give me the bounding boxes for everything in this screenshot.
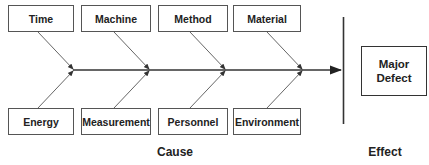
cause-box-environment: Environment bbox=[233, 108, 301, 135]
rib-measurement bbox=[114, 71, 149, 108]
cause-label: Time bbox=[29, 13, 53, 25]
effect-box: Major Defect bbox=[361, 46, 427, 96]
effect-label: Major Defect bbox=[376, 57, 411, 85]
cause-box-material: Material bbox=[233, 5, 301, 32]
cause-caption: Cause bbox=[157, 145, 193, 159]
cause-label: Measurement bbox=[82, 116, 150, 128]
rib-energy bbox=[38, 71, 73, 108]
rib-method bbox=[190, 32, 225, 69]
rib-material bbox=[267, 32, 302, 69]
cause-label: Method bbox=[174, 13, 211, 25]
rib-time bbox=[38, 32, 73, 69]
cause-label: Material bbox=[247, 13, 287, 25]
rib-machine bbox=[114, 32, 149, 69]
rib-environment bbox=[267, 71, 302, 108]
effect-caption: Effect bbox=[368, 145, 401, 159]
cause-box-time: Time bbox=[8, 5, 74, 32]
rib-personnel bbox=[190, 71, 225, 108]
cause-box-method: Method bbox=[158, 5, 228, 32]
cause-box-measurement: Measurement bbox=[81, 108, 151, 135]
cause-label: Environment bbox=[235, 116, 299, 128]
cause-box-energy: Energy bbox=[8, 108, 74, 135]
fishbone-diagram: Time Machine Method Material Energy Meas… bbox=[0, 0, 429, 165]
cause-label: Machine bbox=[95, 13, 137, 25]
cause-box-machine: Machine bbox=[81, 5, 151, 32]
cause-label: Personnel bbox=[168, 116, 219, 128]
cause-box-personnel: Personnel bbox=[158, 108, 228, 135]
cause-label: Energy bbox=[23, 116, 59, 128]
